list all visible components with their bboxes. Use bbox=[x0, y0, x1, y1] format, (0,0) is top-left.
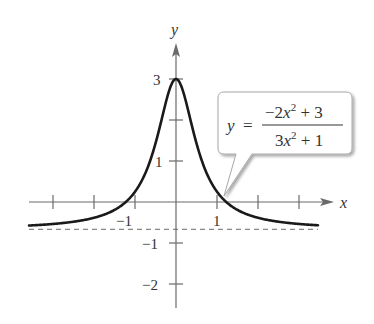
rational-function-graph: x −1 1 y 3 1 −1 −2 y = −2x2 + 3 3x2 + 1 bbox=[0, 0, 374, 324]
y-tick-label-1: 1 bbox=[155, 154, 163, 170]
y-axis-label: y bbox=[169, 21, 179, 39]
equation-equals: = bbox=[243, 116, 253, 135]
equation-denominator: 3x2 + 1 bbox=[275, 129, 323, 150]
x-axis-label: x bbox=[339, 194, 347, 211]
x-tick-label-neg1: −1 bbox=[116, 213, 132, 229]
x-tick-label-1: 1 bbox=[213, 213, 221, 229]
y-tick-label-neg2: −2 bbox=[142, 277, 158, 293]
equation-lhs: y bbox=[225, 116, 235, 135]
equation-callout: y = −2x2 + 3 3x2 + 1 bbox=[218, 92, 352, 196]
y-tick-label-3: 3 bbox=[153, 72, 161, 88]
y-tick-label-neg1: −1 bbox=[142, 236, 158, 252]
